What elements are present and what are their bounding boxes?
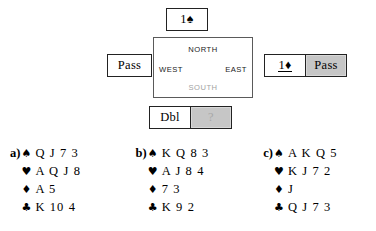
hand-c-diamond-row: ♦ J [274, 180, 338, 198]
compass-label-north: NORTH [188, 45, 217, 54]
compass-label-south: SOUTH [188, 83, 217, 92]
bid-box-south-first[interactable]: Dbl [149, 106, 191, 129]
hand-b-club-cards: K 9 2 [160, 198, 195, 216]
hand-b: b) ♠ K Q 8 3 ♥ A J 8 4 ♦ 7 3 ♣ K 9 2 [125, 144, 251, 231]
compass-table: NORTH WEST EAST SOUTH [153, 37, 253, 98]
spade-icon: ♠ [148, 145, 160, 163]
bid-box-east-first[interactable]: 1♦ [264, 54, 306, 77]
hand-c-heart-cards: K J 7 2 [286, 162, 331, 180]
hand-a-letter: a) [10, 144, 21, 162]
diamond-icon: ♦ [21, 181, 33, 199]
hand-a-spade-cards: Q J 7 3 [33, 144, 78, 162]
hand-c-suits: ♠ A K Q 5 ♥ K J 7 2 ♦ J ♣ Q J 7 3 [274, 144, 338, 216]
diamond-icon: ♦ [274, 181, 286, 199]
hand-b-heart-row: ♥ A J 8 4 [148, 162, 210, 180]
hand-a-club-cards: K 10 4 [33, 198, 76, 216]
hand-c-spade-row: ♠ A K Q 5 [274, 144, 338, 162]
hand-c-spade-cards: A K Q 5 [286, 144, 338, 162]
bid-box-north[interactable]: 1♠ [166, 8, 208, 31]
bid-box-south-first-label: Dbl [160, 111, 180, 124]
hand-b-letter: b) [136, 144, 148, 162]
hand-a-diamond-cards: A 5 [33, 180, 56, 198]
hand-a: a) ♠ Q J 7 3 ♥ A Q J 8 ♦ A 5 ♣ K 10 4 [0, 144, 125, 231]
hand-b-suits: ♠ K Q 8 3 ♥ A J 8 4 ♦ 7 3 ♣ K 9 2 [148, 144, 210, 216]
hand-a-diamond-row: ♦ A 5 [21, 180, 81, 198]
club-icon: ♣ [148, 199, 160, 217]
heart-icon: ♥ [274, 163, 286, 181]
hand-a-suits: ♠ Q J 7 3 ♥ A Q J 8 ♦ A 5 ♣ K 10 4 [21, 144, 81, 216]
hand-c: c) ♠ A K Q 5 ♥ K J 7 2 ♦ J ♣ Q J 7 3 [250, 144, 376, 231]
diamond-icon: ♦ [148, 181, 160, 199]
bid-box-east-first-label: 1♦ [278, 59, 291, 73]
hand-c-club-cards: Q J 7 3 [286, 198, 331, 216]
compass-label-west: WEST [159, 65, 183, 74]
bid-box-east-second-label: Pass [314, 59, 337, 72]
hand-b-spade-cards: K Q 8 3 [160, 144, 210, 162]
bid-box-north-label: 1♠ [180, 13, 194, 26]
bid-box-west-label: Pass [118, 59, 141, 72]
bid-box-south-pending-label: ? [208, 111, 214, 124]
club-icon: ♣ [274, 199, 286, 217]
hand-c-diamond-cards: J [286, 180, 294, 198]
heart-icon: ♥ [148, 163, 160, 181]
bid-box-east-second[interactable]: Pass [305, 54, 347, 77]
hand-b-diamond-cards: 7 3 [160, 180, 181, 198]
hand-b-spade-row: ♠ K Q 8 3 [148, 144, 210, 162]
bid-box-west[interactable]: Pass [107, 54, 152, 77]
hand-b-diamond-row: ♦ 7 3 [148, 180, 210, 198]
spade-icon: ♠ [274, 145, 286, 163]
hand-a-heart-row: ♥ A Q J 8 [21, 162, 81, 180]
hand-c-club-row: ♣ Q J 7 3 [274, 198, 338, 216]
hand-b-club-row: ♣ K 9 2 [148, 198, 210, 216]
bid-box-south-pending[interactable]: ? [190, 106, 232, 129]
hand-a-club-row: ♣ K 10 4 [21, 198, 81, 216]
hand-c-heart-row: ♥ K J 7 2 [274, 162, 338, 180]
heart-icon: ♥ [21, 163, 33, 181]
spade-icon: ♠ [21, 145, 33, 163]
compass-label-east: EAST [225, 65, 247, 74]
hand-b-heart-cards: A J 8 4 [160, 162, 205, 180]
club-icon: ♣ [21, 199, 33, 217]
hand-a-spade-row: ♠ Q J 7 3 [21, 144, 81, 162]
bidding-diagram: 1♠ Pass 1♦ Pass NORTH WEST EAST SOUTH Db… [0, 0, 376, 136]
hand-c-letter: c) [263, 144, 274, 162]
hand-a-heart-cards: A Q J 8 [33, 162, 81, 180]
hands-row: a) ♠ Q J 7 3 ♥ A Q J 8 ♦ A 5 ♣ K 10 4 b) [0, 144, 376, 231]
